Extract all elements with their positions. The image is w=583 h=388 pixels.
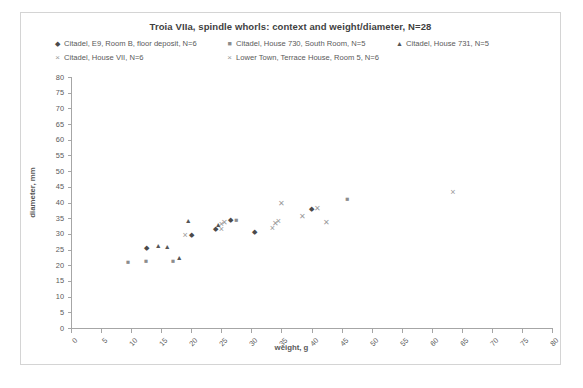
y-tick-label: 70: [44, 104, 64, 113]
x-tick: [161, 329, 162, 333]
x-tick: [251, 329, 252, 333]
x-tick: [462, 329, 463, 333]
y-axis-line: [71, 77, 72, 329]
data-point: ✕: [299, 213, 306, 221]
y-tick-label: 60: [44, 135, 64, 144]
y-tick-label: 25: [44, 245, 64, 254]
data-point: ▲: [164, 243, 171, 250]
y-tick: [68, 93, 71, 94]
y-tick-label: 45: [44, 182, 64, 191]
x-tick: [191, 329, 192, 333]
plot-area: diameter, mm weight, g 05101520253035404…: [21, 13, 562, 366]
y-tick-label: 30: [44, 229, 64, 238]
x-tick: [522, 329, 523, 333]
y-tick: [68, 265, 71, 266]
y-tick-label: 20: [44, 261, 64, 270]
x-tick: [402, 329, 403, 333]
y-tick: [68, 140, 71, 141]
data-point: ▲: [176, 254, 183, 261]
y-tick: [68, 171, 71, 172]
data-point: ■: [171, 257, 175, 264]
y-tick-label: 40: [44, 198, 64, 207]
y-tick-label: 80: [44, 73, 64, 82]
y-tick-label: 50: [44, 167, 64, 176]
x-tick: [131, 329, 132, 333]
y-tick: [68, 312, 71, 313]
y-tick: [68, 281, 71, 282]
data-point: ×: [450, 187, 455, 196]
data-point: ◆: [228, 217, 233, 224]
y-tick-label: 5: [44, 308, 64, 317]
y-tick-label: 10: [44, 292, 64, 301]
y-tick: [68, 155, 71, 156]
data-point: ■: [234, 217, 238, 224]
y-tick: [68, 297, 71, 298]
y-tick-label: 65: [44, 120, 64, 129]
data-point: ◆: [144, 245, 149, 252]
x-tick: [372, 329, 373, 333]
y-tick: [68, 124, 71, 125]
data-point: ✕: [272, 220, 279, 228]
y-tick-label: 75: [44, 88, 64, 97]
data-point: ▲: [155, 241, 162, 248]
data-point: ◆: [189, 232, 194, 239]
y-tick: [68, 218, 71, 219]
x-tick: [281, 329, 282, 333]
y-tick: [68, 108, 71, 109]
y-tick: [68, 234, 71, 235]
x-tick: [312, 329, 313, 333]
x-tick: [71, 329, 72, 333]
x-tick: [101, 329, 102, 333]
y-tick: [68, 203, 71, 204]
x-tick: [221, 329, 222, 333]
data-point: ◆: [252, 229, 257, 236]
y-tick: [68, 250, 71, 251]
y-tick-label: 35: [44, 214, 64, 223]
data-point: ✕: [314, 205, 321, 213]
data-point: ✕: [323, 219, 330, 227]
y-tick: [68, 187, 71, 188]
x-tick: [432, 329, 433, 333]
data-point: ■: [126, 259, 130, 266]
y-axis-title: diameter, mm: [28, 167, 37, 217]
data-point: ■: [144, 257, 148, 264]
data-point: ×: [183, 231, 188, 240]
data-point: ✕: [221, 219, 228, 227]
y-tick-label: 0: [44, 324, 64, 333]
y-tick-label: 15: [44, 276, 64, 285]
chart-container: Troia VIIa, spindle whorls: context and …: [20, 12, 561, 365]
data-point: ▲: [185, 216, 192, 223]
data-point: ■: [346, 196, 350, 203]
y-tick-label: 55: [44, 151, 64, 160]
y-tick: [68, 77, 71, 78]
x-tick: [552, 329, 553, 333]
data-point: ✕: [278, 200, 285, 208]
x-tick: [342, 329, 343, 333]
x-tick: [492, 329, 493, 333]
